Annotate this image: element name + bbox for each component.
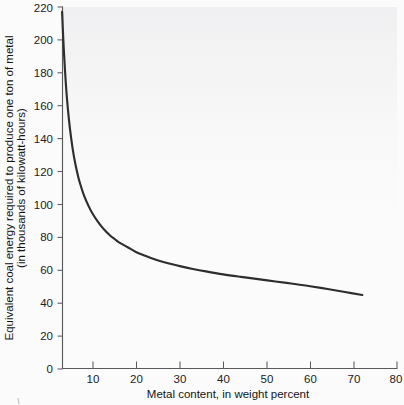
data-series-line — [62, 12, 362, 295]
y-tick-marks — [58, 7, 63, 369]
x-tick-label-10: 10 — [87, 373, 100, 385]
scan-artifact — [18, 398, 19, 404]
y-tick-label-0: 0 — [47, 363, 53, 375]
y-tick-label-40: 40 — [40, 297, 53, 309]
y-tick-label-180: 180 — [34, 67, 53, 79]
chart-svg: 0 20 40 60 80 100 120 140 160 180 200 22… — [0, 0, 404, 405]
y-axis-title-line2: (in thousands of kilowatt-hours) — [15, 108, 27, 268]
y-tick-label-100: 100 — [34, 199, 53, 211]
figure-container: 0 20 40 60 80 100 120 140 160 180 200 22… — [0, 0, 404, 405]
x-tick-label-50: 50 — [261, 373, 274, 385]
x-axis-title: Metal content, in weight percent — [147, 388, 310, 400]
y-tick-label-60: 60 — [40, 264, 53, 276]
x-tick-label-40: 40 — [217, 373, 230, 385]
y-tick-label-80: 80 — [40, 231, 53, 243]
y-tick-label-200: 200 — [34, 34, 53, 46]
x-tick-label-70: 70 — [348, 373, 361, 385]
y-tick-label-120: 120 — [34, 166, 53, 178]
y-tick-label-20: 20 — [40, 330, 53, 342]
y-axis-title-line1: Equivalent coal energy required to produ… — [3, 36, 15, 341]
y-tick-label-160: 160 — [34, 100, 53, 112]
x-tick-label-80: 80 — [390, 373, 403, 385]
x-tick-label-60: 60 — [304, 373, 317, 385]
y-tick-label-140: 140 — [34, 133, 53, 145]
y-tick-label-220: 220 — [34, 2, 53, 14]
x-tick-marks — [93, 362, 397, 369]
x-tick-label-30: 30 — [174, 373, 187, 385]
x-tick-label-20: 20 — [130, 373, 143, 385]
